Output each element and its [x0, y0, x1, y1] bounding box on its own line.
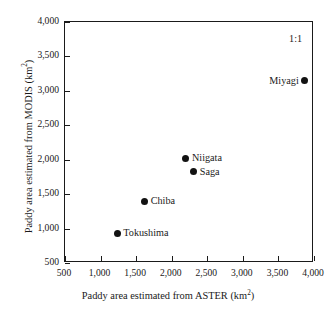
x-tick-mark: [172, 256, 173, 261]
y-axis-title-text: Paddy area estimated from MODIS (km: [23, 67, 34, 234]
x-tick-mark: [136, 256, 137, 261]
data-point: [190, 168, 197, 175]
data-point-label: Chiba: [151, 196, 175, 206]
y-axis-title: Paddy area estimated from MODIS (km2): [23, 22, 34, 272]
x-tick-mark: [101, 256, 102, 261]
x-axis-title: Paddy area estimated from ASTER (km2): [0, 290, 336, 301]
one-to-one-annotation: 1:1: [289, 34, 302, 44]
y-tick-mark: [65, 22, 70, 23]
scatter-chart-figure: 5001,0001,5002,0002,5003,0003,5004,000 5…: [0, 0, 336, 315]
data-point-label: Miyagi: [269, 75, 298, 85]
x-tick-mark: [243, 256, 244, 261]
y-tick-mark: [65, 194, 70, 195]
y-tick-mark: [65, 56, 70, 57]
data-point: [182, 155, 189, 162]
data-point: [301, 77, 308, 84]
y-axis-title-superscript: 2: [21, 63, 29, 67]
y-tick-mark: [65, 160, 70, 161]
x-tick-mark: [314, 256, 315, 261]
y-tick-mark: [65, 91, 70, 92]
y-axis-title-tail: ): [23, 60, 34, 63]
plot-area: MiyagiNiigataSagaChibaTokushima 1:1: [64, 21, 313, 262]
data-point: [141, 198, 148, 205]
x-axis-title-tail: ): [251, 290, 254, 301]
data-point-label: Niigata: [192, 153, 222, 163]
x-tick-label: 4,000: [289, 268, 336, 278]
data-point: [114, 230, 121, 237]
x-tick-mark: [65, 256, 66, 261]
y-tick-mark: [65, 229, 70, 230]
x-tick-mark: [207, 256, 208, 261]
y-tick-mark: [65, 263, 70, 264]
y-tick-mark: [65, 125, 70, 126]
data-point-label: Tokushima: [123, 228, 168, 238]
x-axis-title-text: Paddy area estimated from ASTER (km: [82, 290, 247, 301]
data-point-label: Saga: [200, 167, 220, 177]
x-tick-mark: [278, 256, 279, 261]
